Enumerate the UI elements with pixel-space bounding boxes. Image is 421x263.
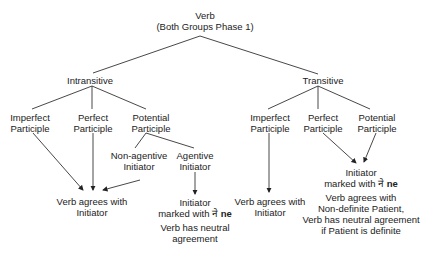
transitive-imperfect-participle: Imperfect Participle — [250, 112, 290, 134]
transitive-perfect-participle: Perfect Participle — [303, 112, 342, 134]
label-line: Agentive — [177, 150, 214, 161]
intransitive-perfect-participle: Perfect Participle — [73, 112, 112, 134]
ne-marker-devanagari: ने — [212, 208, 218, 219]
intransitive-potential-participle: Potential Participle — [131, 112, 170, 134]
label-line: marked with ने ne — [302, 178, 419, 189]
ne-marker-latin: ne — [387, 178, 398, 189]
non-agentive-initiator-node: Non-agentive Initiator — [111, 150, 168, 172]
transitive-node: Transitive — [303, 75, 344, 86]
label-line: Participle — [73, 123, 112, 134]
ne-marker-latin: ne — [221, 208, 232, 219]
label-line: Perfect — [73, 112, 112, 123]
label-line: Imperfect — [10, 112, 50, 123]
label-line: Initiator — [177, 161, 214, 172]
transitive-potential-participle: Potential Participle — [357, 112, 396, 134]
outcome-verb-agrees-initiator-transitive: Verb agrees with Initiator — [235, 196, 306, 218]
label-line: Verb agrees with — [302, 192, 419, 203]
label-line: Potential — [357, 112, 396, 123]
label-line: marked with ने ne — [158, 208, 232, 219]
label-line: Participle — [303, 123, 342, 134]
label-line: Verb agrees with — [235, 196, 306, 207]
label-line: Participle — [10, 123, 50, 134]
outcome-agentive-marked-ne: Initiator marked with ने ne Verb has neu… — [158, 197, 232, 244]
intransitive-imperfect-participle: Imperfect Participle — [10, 112, 50, 134]
label-line: Imperfect — [250, 112, 290, 123]
transitive-label: Transitive — [303, 75, 344, 86]
label-line: Non-definite Patient, — [302, 203, 419, 214]
label-line: Participle — [131, 123, 170, 134]
intransitive-label: Intransitive — [67, 75, 113, 86]
label-line: Verb has neutral agreement — [302, 214, 419, 225]
label-line: Initiator — [302, 167, 419, 178]
label-text: marked with — [158, 208, 212, 219]
label-line: Initiator — [235, 207, 306, 218]
label-line: Verb agrees with — [57, 196, 128, 207]
root-label: Verb — [156, 10, 253, 21]
ne-marker-devanagari: ने — [378, 178, 384, 189]
label-line: agreement — [158, 233, 232, 244]
label-line: if Patient is definite — [302, 225, 419, 236]
label-line: Participle — [250, 123, 290, 134]
label-line: Initiator — [158, 197, 232, 208]
root-node: Verb (Both Groups Phase 1) — [156, 10, 253, 32]
label-text: marked with — [324, 178, 378, 189]
outcome-perfect-potential-marked-ne: Initiator marked with ने ne Verb agrees … — [302, 167, 419, 236]
label-line: Verb has neutral — [158, 222, 232, 233]
label-line: Perfect — [303, 112, 342, 123]
intransitive-node: Intransitive — [67, 75, 113, 86]
outcome-verb-agrees-initiator-intransitive: Verb agrees with Initiator — [57, 196, 128, 218]
label-line: Initiator — [57, 207, 128, 218]
label-line: Potential — [131, 112, 170, 123]
agentive-initiator-node: Agentive Initiator — [177, 150, 214, 172]
label-line: Initiator — [111, 161, 168, 172]
label-line: Participle — [357, 123, 396, 134]
label-line: Non-agentive — [111, 150, 168, 161]
root-sublabel: (Both Groups Phase 1) — [156, 21, 253, 32]
